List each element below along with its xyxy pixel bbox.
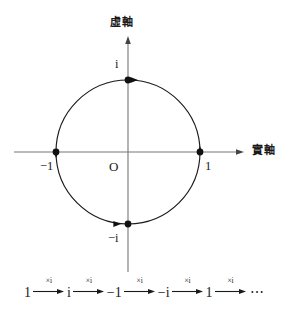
direction-arrow-i xyxy=(130,77,138,83)
sequence-arrow-label: ×i xyxy=(73,277,105,285)
sequence-term-1: 1 xyxy=(23,286,32,300)
multiplication-sequence: 1 ×i i ×i −1 ×i −i ×i xyxy=(0,279,289,317)
real-axis xyxy=(14,149,244,155)
imaginary-axis-arrowhead xyxy=(125,36,131,44)
point-marker-i xyxy=(125,77,138,84)
tick-label-minus-i: −i xyxy=(108,232,119,245)
complex-plane-figure: 虛軸 實軸 i −1 1 −i O xyxy=(0,0,289,317)
sequence-arrow-label: ×i xyxy=(124,277,156,285)
sequence-term-3: −1 xyxy=(106,286,123,300)
tick-label-minus-one: −1 xyxy=(40,160,53,173)
point-marker-one xyxy=(197,146,204,155)
point-marker-minus-one xyxy=(53,149,60,158)
sequence-term-2: i xyxy=(66,286,72,300)
sequence-arrow-label: ×i xyxy=(172,277,204,285)
sequence-arrow-1: ×i xyxy=(33,279,65,297)
tick-label-i: i xyxy=(115,58,118,71)
sequence-arrow-label: ×i xyxy=(33,277,65,285)
sequence-ellipsis: ⋯ xyxy=(248,286,267,300)
direction-arrow-minus-i xyxy=(113,221,121,227)
origin-label: O xyxy=(109,160,118,173)
imaginary-axis-label: 虛軸 xyxy=(110,17,133,28)
sequence-arrow-label: ×i xyxy=(215,277,247,285)
tick-label-one: 1 xyxy=(205,160,211,173)
real-axis-arrowhead xyxy=(236,149,244,155)
sequence-term-5: 1 xyxy=(205,286,214,300)
sequence-arrow-3: ×i xyxy=(124,279,156,297)
sequence-arrow-2: ×i xyxy=(73,279,105,297)
sequence-term-4: −i xyxy=(157,286,171,300)
imaginary-axis xyxy=(125,36,131,272)
sequence-arrow-4: ×i xyxy=(172,279,204,297)
sequence-arrow-5: ×i xyxy=(215,279,247,297)
real-axis-label: 實軸 xyxy=(252,145,275,156)
